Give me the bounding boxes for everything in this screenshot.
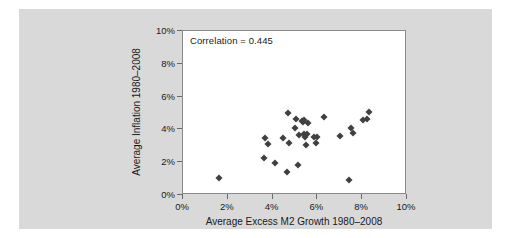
scatter-point bbox=[313, 140, 320, 147]
scatter-point bbox=[345, 177, 352, 184]
y-axis-title-holder: Average Inflation 1980–2008 bbox=[131, 30, 145, 194]
scatter-point bbox=[303, 141, 310, 148]
y-axis-tick bbox=[177, 30, 182, 31]
scatter-point bbox=[215, 174, 222, 181]
x-axis-title: Average Excess M2 Growth 1980–2008 bbox=[182, 216, 406, 227]
x-axis-tick-label: 10% bbox=[386, 201, 426, 212]
x-axis-tick-label: 2% bbox=[207, 201, 247, 212]
y-axis-tick bbox=[177, 96, 182, 97]
scatter-point bbox=[284, 168, 291, 175]
x-axis-tick-label: 0% bbox=[162, 201, 202, 212]
scatter-point bbox=[314, 133, 321, 140]
x-axis-tick-label: 6% bbox=[296, 201, 336, 212]
figure-canvas: Correlation = 0.445 0%2%4%6%8%10% 0%2%4%… bbox=[0, 0, 511, 238]
x-axis-tick-label: 8% bbox=[341, 201, 381, 212]
x-axis-tick bbox=[227, 194, 228, 199]
scatter-point bbox=[291, 124, 298, 131]
scatter-point bbox=[279, 134, 286, 141]
y-axis-tick bbox=[177, 63, 182, 64]
x-axis-tick bbox=[272, 194, 273, 199]
y-axis-tick bbox=[177, 128, 182, 129]
plot-area bbox=[182, 30, 406, 194]
scatter-point bbox=[286, 140, 293, 147]
scatter-point bbox=[265, 141, 272, 148]
scatter-point bbox=[305, 119, 312, 126]
scatter-point bbox=[271, 159, 278, 166]
x-axis-tick-label: 4% bbox=[252, 201, 292, 212]
scatter-point bbox=[260, 155, 267, 162]
figure-panel: Correlation = 0.445 0%2%4%6%8%10% 0%2%4%… bbox=[19, 9, 492, 229]
scatter-point bbox=[295, 161, 302, 168]
y-axis-tick bbox=[177, 161, 182, 162]
y-axis-title: Average Inflation 1980–2008 bbox=[131, 30, 142, 194]
x-axis-tick bbox=[182, 194, 183, 199]
scatter-point bbox=[321, 114, 328, 121]
x-axis-tick bbox=[316, 194, 317, 199]
scatter-point bbox=[285, 109, 292, 116]
correlation-annotation: Correlation = 0.445 bbox=[190, 35, 273, 46]
x-axis-tick bbox=[361, 194, 362, 199]
scatter-points-layer bbox=[183, 31, 405, 193]
x-axis-tick bbox=[406, 194, 407, 199]
scatter-point bbox=[350, 129, 357, 136]
scatter-point bbox=[336, 132, 343, 139]
